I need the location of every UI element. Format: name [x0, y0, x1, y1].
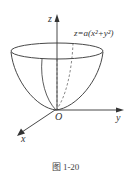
x-axis [22, 110, 55, 132]
paraboloid-front-meridian [42, 59, 56, 110]
origin-label: O [55, 112, 62, 122]
z-axis-label: z [48, 14, 52, 24]
paraboloid-back-meridian [56, 43, 73, 110]
x-axis-label: x [21, 134, 25, 144]
paraboloid-diagram [0, 0, 131, 172]
y-axis-label: y [116, 113, 120, 123]
figure-caption: 图 1-20 [0, 160, 131, 172]
z-axis-arrow-icon [55, 14, 60, 22]
equation-label: z=a(x²+y²) [74, 29, 114, 38]
